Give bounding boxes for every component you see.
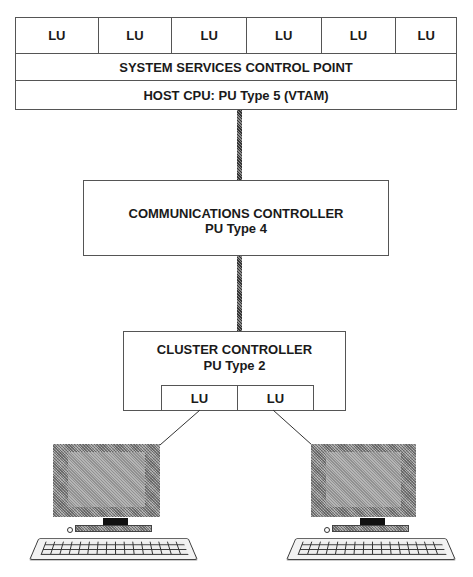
monitor-base	[75, 525, 152, 532]
terminal-right	[287, 443, 457, 568]
terminal-left	[30, 443, 200, 568]
monitor-screen	[68, 452, 145, 507]
keyboard-keys	[298, 542, 447, 555]
monitor-icon	[311, 444, 416, 517]
monitor-icon	[53, 444, 160, 517]
power-button-icon	[67, 527, 73, 533]
monitor-base	[332, 525, 409, 532]
monitor-screen	[326, 452, 401, 507]
power-button-icon	[324, 527, 330, 533]
keyboard-icon	[286, 538, 456, 560]
keyboard-keys	[41, 542, 189, 555]
keyboard-icon	[29, 538, 198, 560]
